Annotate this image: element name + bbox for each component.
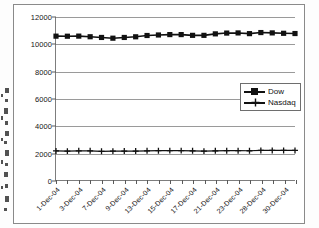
y-tick-label: 6000	[35, 95, 52, 104]
x-tick-mark	[147, 180, 148, 184]
data-point-marker	[53, 34, 58, 39]
data-point-marker	[144, 148, 150, 154]
x-tick-mark	[205, 180, 206, 184]
legend-label-nasdaq: Nasdaq	[268, 98, 296, 108]
scan-speck	[5, 196, 9, 202]
data-point-marker	[178, 148, 184, 154]
scanned-page: 020004000600080001000012000 1-Dec-043-De…	[0, 0, 319, 228]
chart-frame: 020004000600080001000012000 1-Dec-043-De…	[13, 4, 305, 224]
data-point-marker	[133, 148, 139, 154]
chart-legend: Dow Nasdaq	[240, 83, 301, 111]
data-point-marker	[247, 31, 252, 36]
data-point-marker	[224, 148, 230, 154]
data-point-marker	[201, 33, 206, 38]
data-point-marker	[64, 148, 70, 154]
scan-speck	[5, 121, 8, 125]
data-point-marker	[133, 34, 138, 39]
scan-speck	[1, 186, 3, 189]
legend-label-dow: Dow	[268, 87, 284, 97]
data-point-marker	[292, 31, 297, 36]
scan-speck	[5, 99, 8, 102]
scan-speck	[1, 138, 3, 141]
data-point-marker	[270, 30, 275, 35]
scan-speck	[1, 94, 3, 97]
legend-item-dow: Dow	[244, 86, 296, 97]
data-point-marker	[246, 148, 252, 154]
x-tick-mark	[273, 180, 274, 184]
data-point-marker	[87, 148, 93, 154]
data-point-marker	[269, 147, 275, 153]
series-nasdaq	[53, 147, 298, 154]
scan-speck	[5, 88, 9, 93]
legend-item-nasdaq: Nasdaq	[244, 97, 296, 108]
data-point-marker	[258, 147, 264, 153]
data-point-marker	[99, 35, 104, 40]
scan-speck	[5, 163, 8, 166]
x-tick-mark	[216, 180, 217, 184]
data-point-marker	[213, 31, 218, 36]
data-point-marker	[76, 148, 82, 154]
x-tick-mark	[296, 180, 297, 184]
x-tick-mark	[262, 180, 263, 184]
data-point-marker	[110, 148, 116, 154]
y-tick-label: 4000	[35, 122, 52, 131]
scan-speck	[5, 131, 9, 136]
data-point-marker	[65, 34, 70, 39]
scan-speck	[4, 141, 7, 144]
y-tick-label: 8000	[35, 67, 52, 76]
data-point-marker	[292, 147, 298, 153]
x-tick-mark	[182, 180, 183, 184]
scan-speck	[4, 108, 8, 114]
data-point-marker	[156, 32, 161, 37]
x-tick-mark	[239, 180, 240, 184]
x-tick-mark	[56, 180, 57, 184]
data-point-marker	[201, 148, 207, 154]
data-point-marker	[88, 34, 93, 39]
x-tick-mark	[285, 180, 286, 184]
data-point-marker	[281, 147, 287, 153]
x-tick-mark	[193, 180, 194, 184]
x-tick-mark	[79, 180, 80, 184]
scan-speck	[1, 116, 3, 120]
data-point-marker	[236, 30, 241, 35]
scan-speck	[4, 172, 8, 177]
data-point-marker	[121, 148, 127, 154]
data-point-marker	[258, 30, 263, 35]
data-point-marker	[179, 32, 184, 37]
data-point-marker	[190, 148, 196, 154]
x-tick-label: 3-Dec-04	[58, 186, 84, 212]
data-point-marker	[122, 35, 127, 40]
scan-speck	[4, 208, 7, 211]
data-point-marker	[144, 33, 149, 38]
data-point-marker	[110, 36, 115, 41]
x-tick-mark	[170, 180, 171, 184]
data-point-marker	[99, 148, 105, 154]
y-tick-label: 12000	[31, 13, 52, 22]
x-tick-mark	[159, 180, 160, 184]
data-point-marker	[190, 33, 195, 38]
x-tick-mark	[136, 180, 137, 184]
scan-speck	[5, 150, 9, 156]
y-tick-label: 2000	[35, 149, 52, 158]
data-point-marker	[167, 148, 173, 154]
data-point-marker	[155, 148, 161, 154]
x-tick-mark	[102, 180, 103, 184]
x-tick-label: 1-Dec-04	[35, 186, 61, 212]
x-tick-mark	[227, 180, 228, 184]
x-tick-mark	[113, 180, 114, 184]
x-tick-mark	[90, 180, 91, 184]
legend-marker-square-icon	[244, 87, 265, 96]
scan-speck	[1, 160, 3, 164]
data-point-marker	[212, 148, 218, 154]
data-point-marker	[167, 32, 172, 37]
data-point-marker	[281, 31, 286, 36]
data-point-marker	[76, 34, 81, 39]
x-tick-mark	[125, 180, 126, 184]
x-tick-mark	[67, 180, 68, 184]
data-point-marker	[235, 148, 241, 154]
series-dow	[53, 30, 297, 41]
legend-marker-cross-icon	[244, 98, 265, 107]
y-tick-label: 10000	[31, 40, 52, 49]
x-tick-mark	[250, 180, 251, 184]
scan-speck	[5, 184, 8, 188]
